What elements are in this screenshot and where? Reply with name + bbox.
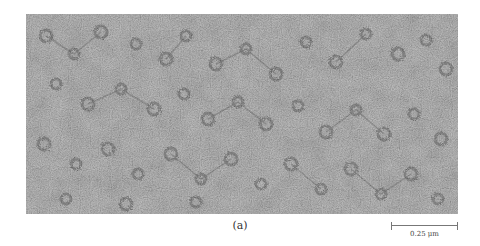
micrograph-image bbox=[26, 14, 458, 214]
scale-bar-line bbox=[392, 225, 457, 226]
scale-bar-label: 0.25 μm bbox=[391, 230, 458, 238]
scale-bar bbox=[391, 222, 458, 230]
micrograph-texture bbox=[26, 14, 458, 214]
